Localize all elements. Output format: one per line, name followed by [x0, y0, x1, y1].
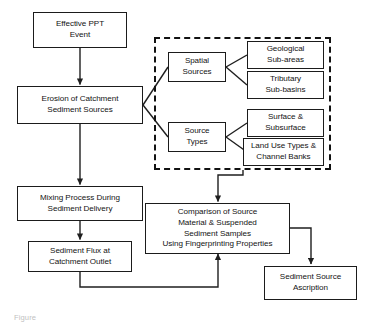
figure-caption: Figure: [14, 313, 36, 322]
node-geological-sub-areas-label: Geological Sub-areas: [267, 44, 305, 66]
node-surface-subsurface-label: Surface & Subsurface: [265, 112, 305, 134]
node-geological-sub-areas[interactable]: Geological Sub-areas: [247, 41, 324, 69]
node-effective-ppt-event-label: Effective PPT Event: [56, 19, 104, 41]
node-erosion-of-catchment-sediment-sources[interactable]: Erosion of Catchment Sediment Sources: [17, 86, 143, 124]
flowchart-canvas: Effective PPT Event Erosion of Catchment…: [0, 0, 370, 327]
node-mixing-process-during-sediment-delivery[interactable]: Mixing Process During Sediment Delivery: [17, 186, 143, 221]
node-effective-ppt-event[interactable]: Effective PPT Event: [33, 12, 127, 48]
connector-group-to-comparison: [218, 170, 243, 202]
node-sediment-flux-at-catchment-outlet-label: Sediment Flux at Catchment Outlet: [49, 246, 111, 268]
node-source-types-label: Source Types: [184, 126, 209, 147]
node-sediment-flux-at-catchment-outlet[interactable]: Sediment Flux at Catchment Outlet: [28, 241, 132, 272]
node-spatial-sources[interactable]: Spatial Sources: [168, 52, 226, 82]
connector-comparison-to-ascription: [290, 228, 311, 264]
node-comparison-of-source-material-label: Comparison of Source Material & Suspende…: [162, 207, 272, 250]
node-tributary-sub-basins[interactable]: Tributary Sub-basins: [247, 71, 324, 99]
node-tributary-sub-basins-label: Tributary Sub-basins: [266, 74, 306, 96]
node-land-use-types-channel-banks[interactable]: Land Use Types & Channel Banks: [243, 138, 324, 166]
node-comparison-of-source-material[interactable]: Comparison of Source Material & Suspende…: [145, 203, 290, 254]
node-erosion-of-catchment-sediment-sources-label: Erosion of Catchment Sediment Sources: [42, 94, 119, 116]
node-surface-subsurface[interactable]: Surface & Subsurface: [247, 109, 324, 137]
node-sediment-source-ascription-label: Sediment Source Ascription: [280, 272, 341, 294]
node-source-types[interactable]: Source Types: [168, 122, 226, 152]
node-sediment-source-ascription[interactable]: Sediment Source Ascription: [264, 266, 357, 300]
node-land-use-types-channel-banks-label: Land Use Types & Channel Banks: [251, 141, 316, 163]
node-mixing-process-during-sediment-delivery-label: Mixing Process During Sediment Delivery: [40, 193, 120, 215]
node-spatial-sources-label: Spatial Sources: [183, 56, 212, 77]
